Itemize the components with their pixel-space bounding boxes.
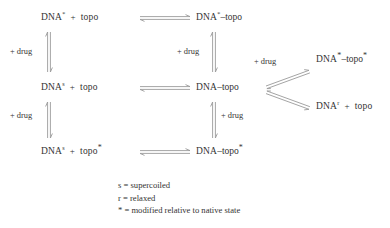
drug-label-middle-upper: + drug [177,47,199,56]
species-text: DNA [196,82,217,92]
equilibrium-arrow-row2 [137,83,193,93]
equilibrium-arrow-row3 [137,147,193,157]
species-tail: –topo [217,146,239,156]
plus-operator: + [65,12,80,22]
legend-item-modified: * = modified relative to native state [118,204,240,217]
equilibrium-arrow-vertical-middle-upper [209,30,219,74]
species-tail: –topo [217,82,239,92]
species-text: DNA [316,54,337,64]
species-text: topo [355,101,373,111]
equilibrium-arrow-vertical-middle-lower [209,100,219,140]
species-text: DNA [196,12,217,22]
species-asterisk-tail: * [363,51,367,60]
species-text: DNA [316,101,337,111]
species-asterisk: * [98,143,102,152]
plus-operator: + [65,82,80,92]
species-text: topo [80,146,98,156]
plus-operator: + [65,146,80,156]
species-tail: –topo [220,12,242,22]
drug-label-middle-lower: + drug [221,111,243,120]
species-row3-left: DNAs+topo* [41,146,102,156]
diagram-canvas: DNA*+topo DNA*–topo + drug + drug [0,0,390,228]
species-branch-upper: DNA*–topo* [316,54,367,64]
species-asterisk-tail: * [239,143,243,152]
species-text: DNA [41,146,62,156]
drug-label-left-upper: + drug [10,47,32,56]
species-text: DNA [196,146,217,156]
legend-item-supercoiled: s = supercoiled [118,179,240,192]
species-row1-right: DNA*–topo [196,12,242,22]
equilibrium-arrow-vertical-left-upper [44,30,54,74]
legend-item-relaxed: r = relaxed [118,192,240,205]
species-text: DNA [41,82,62,92]
drug-label-left-lower: + drug [10,111,32,120]
species-tail: –topo [341,54,363,64]
species-branch-lower: DNAr+topo [316,101,372,111]
species-row1-left: DNA*+topo [41,12,98,22]
species-row2-right: DNA–topo [196,82,239,92]
plus-operator: + [339,101,354,111]
species-text: topo [80,82,98,92]
equilibrium-arrow-row1 [137,13,193,23]
species-row2-left: DNAs+topo [41,82,98,92]
species-text: topo [81,12,99,22]
drug-label-branch: + drug [254,57,276,66]
equilibrium-arrow-vertical-left-lower [44,100,54,140]
equilibrium-arrow-branch-upper [264,66,312,90]
species-text: DNA [41,12,62,22]
species-row3-right: DNA–topo* [196,146,243,156]
legend: s = supercoiled r = relaxed * = modified… [118,179,240,217]
equilibrium-arrow-branch-lower [264,90,312,114]
